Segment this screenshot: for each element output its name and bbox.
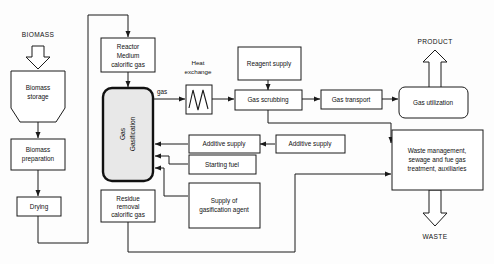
edge-agent-to-gasification: [155, 168, 188, 196]
reactor-line2: Medium: [117, 52, 140, 59]
gas-edge-label: gas: [157, 88, 167, 96]
gas-scrubbing-label: Gas scrubbing: [247, 96, 289, 104]
node-reactor: Reactor Medium calorific gas: [101, 38, 155, 72]
heat-exchange-shape: [186, 85, 212, 114]
heat-exchange-line2: exchange: [185, 68, 212, 75]
gasification-agent-line1: Supply of: [211, 197, 238, 205]
waste-management-line1: Waste management,: [408, 147, 467, 155]
edge-startingfuel-to-gasification: [155, 156, 188, 164]
biomass-storage-line1: Biomass: [26, 84, 51, 91]
reactor-line1: Reactor: [117, 43, 140, 50]
starting-fuel-label: Starting fuel: [205, 161, 239, 169]
process-flow-diagram: BIOMASS Biomass storage Biomass preparat…: [0, 0, 494, 264]
node-gasification-agent: Supply of gasification agent: [189, 183, 260, 228]
biomass-preparation-line2: preparation: [22, 155, 55, 163]
gasification-line2: Gasification: [129, 116, 136, 151]
residue-removal-line3: calorific gas: [111, 211, 145, 219]
node-gas-transport: Gas transport: [321, 90, 382, 109]
node-reagent-supply: Reagent supply: [238, 47, 301, 80]
additive-supply-right-label: Additive supply: [289, 140, 333, 148]
gasification-agent-line2: gasification agent: [199, 206, 249, 214]
node-gas-utilization: Gas utilization: [399, 87, 468, 118]
waste-output-arrow: [423, 190, 447, 226]
reagent-supply-label: Reagent supply: [247, 60, 292, 68]
gas-utilization-label: Gas utilization: [413, 99, 454, 106]
biomass-input-arrow: [26, 46, 50, 69]
node-additive-supply-left: Additive supply: [189, 135, 260, 153]
node-waste-management: Waste management, sewage and fue gas tre…: [392, 130, 483, 190]
reactor-line3: calorific gas: [111, 61, 145, 69]
residue-removal-line2: removal: [117, 203, 140, 210]
residue-removal-line1: Residue: [116, 195, 140, 202]
biomass-preparation-line1: Biomass: [26, 146, 51, 153]
drying-label: Drying: [30, 203, 49, 211]
additive-supply-left-label: Additive supply: [203, 140, 247, 148]
node-gas-scrubbing: Gas scrubbing: [235, 90, 302, 110]
node-biomass-storage: Biomass storage: [11, 71, 65, 122]
product-output-label: PRODUCT: [417, 38, 452, 45]
node-heat-exchange: Heat exchange: [185, 59, 212, 114]
product-output-arrow: [423, 50, 447, 88]
node-drying: Drying: [17, 197, 61, 216]
heat-exchange-line1: Heat: [191, 59, 204, 66]
gasification-line1: Gas: [119, 127, 126, 140]
node-starting-fuel: Starting fuel: [189, 155, 256, 174]
node-biomass-preparation: Biomass preparation: [11, 139, 65, 170]
waste-management-line3: treatment, auxiliaries: [408, 165, 467, 172]
node-residue-removal: Residue removal calorific gas: [101, 190, 155, 222]
biomass-storage-line2: storage: [27, 93, 49, 101]
node-gasification: Gas Gasification: [103, 88, 153, 181]
biomass-input-label: BIOMASS: [22, 31, 55, 38]
waste-management-line2: sewage and fue gas: [408, 156, 465, 164]
node-additive-supply-right: Additive supply: [276, 135, 345, 153]
gas-transport-label: Gas transport: [332, 96, 371, 104]
waste-output-label: WASTE: [423, 233, 448, 240]
diagram-canvas: BIOMASS Biomass storage Biomass preparat…: [0, 0, 494, 264]
